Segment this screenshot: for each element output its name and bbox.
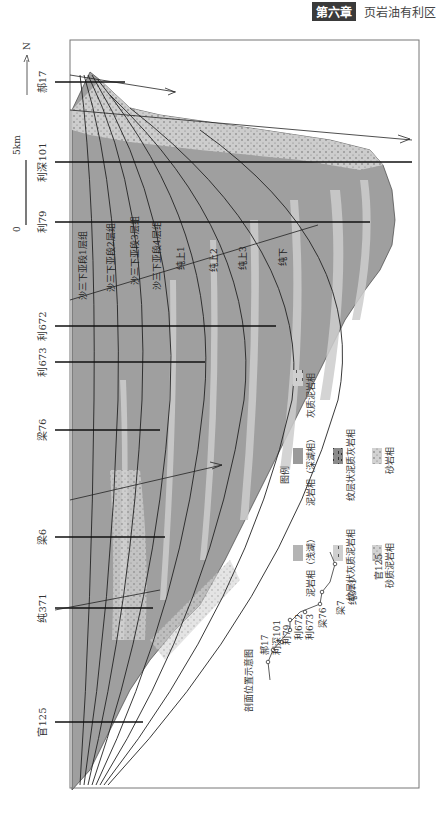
layer-label: 纯下	[277, 248, 288, 266]
well-label: 梁6	[36, 529, 48, 545]
well-label: 利79	[37, 211, 48, 234]
layer-label: 沙三下亚段3层组	[129, 216, 140, 285]
cross-section-figure: 郝17 利深101 利79 利672 利673 梁76 梁6 纯371 官125…	[0, 30, 436, 790]
inset-well-label: 郝17	[259, 634, 270, 655]
legend-swatch-deep-mudstone	[293, 448, 303, 464]
north-arrow: N	[22, 42, 32, 95]
legend-swatch-calcareous-mudstone	[293, 370, 303, 386]
inset-well-label: 官125	[373, 554, 384, 580]
well-label: 梁76	[36, 419, 48, 442]
north-label: N	[22, 42, 32, 50]
layer-label: 沙三下亚段4层组	[151, 221, 162, 290]
legend-label: 灰质泥岩相	[305, 373, 316, 418]
inset-well-label: 纯371	[347, 579, 358, 605]
legend-swatch-laminated-calcareous-mudstone	[333, 545, 343, 561]
scale-bar: 5km 0	[12, 135, 26, 232]
legend-title: 图例	[279, 466, 290, 484]
legend-label: 泥岩相（浅湖）	[305, 534, 316, 597]
legend-swatch-sandstone	[372, 448, 382, 464]
layer-label: 沙三下亚段1层组	[77, 231, 88, 300]
layer-label: 纯上2	[208, 248, 219, 272]
chapter-badge: 第六章	[312, 2, 356, 21]
inset-well-label: 梁7	[335, 600, 346, 615]
well-labels: 郝17 利深101 利79 利672 利673 梁76 梁6 纯371 官125	[36, 71, 48, 737]
legend-label: 砂岩相	[384, 447, 395, 474]
layer-label: 纯上1	[175, 246, 186, 270]
chapter-title: 页岩油有利区	[364, 3, 436, 20]
inset-title: 剖面位置示意图	[243, 649, 254, 712]
inset-well-label: 利深101	[271, 620, 282, 655]
inset-well-label: 利673	[304, 614, 315, 640]
scale-length: 5km	[12, 135, 22, 155]
well-label: 利672	[37, 311, 48, 340]
well-label: 利深101	[37, 142, 48, 181]
well-label: 郝17	[37, 71, 48, 94]
scale-zero: 0	[12, 226, 22, 232]
inset-well-label: 利79	[281, 624, 292, 645]
legend-swatch-shallow-mudstone	[293, 545, 303, 561]
legend-label: 砂质泥岩相	[384, 543, 395, 588]
legend-label: 泥岩相（深湖相）	[305, 434, 316, 506]
well-label: 官125	[36, 707, 48, 736]
legend-swatch-laminated-argillaceous-limestone	[333, 448, 343, 464]
well-label: 利673	[37, 347, 48, 376]
inset-well-label: 利672	[293, 614, 304, 640]
inset-well-label: 梁76	[317, 607, 328, 628]
well-label: 纯371	[36, 593, 48, 622]
layer-label: 沙三下亚段2层组	[105, 223, 116, 292]
legend-label: 纹层状泥质灰岩相	[345, 429, 356, 501]
layer-label: 纯上3	[237, 246, 248, 270]
page-header: 第六章 页岩油有利区	[312, 0, 436, 22]
